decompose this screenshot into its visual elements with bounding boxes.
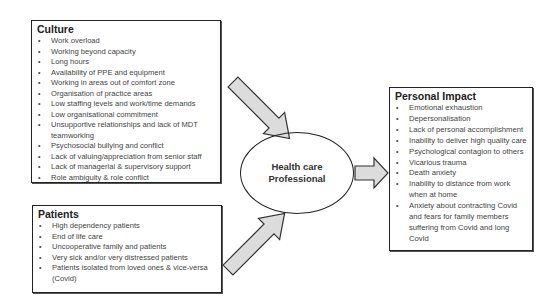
list-item: Role ambiguity & role conflict	[37, 173, 216, 184]
arrow-center-to-impact	[355, 158, 388, 188]
list-item: Psychosocial bullying and conflict	[37, 141, 216, 152]
list-item: Lack of valuing/appreciation from senior…	[37, 152, 216, 163]
list-item: Long hours	[37, 57, 216, 68]
list-item: Very sick and/or very distressed patient…	[38, 253, 217, 264]
patients-title: Patients	[38, 208, 217, 220]
list-item: High dependency patients	[38, 221, 217, 232]
list-item: Patients isolated from loved ones & vice…	[38, 263, 217, 284]
list-item: Inability to distance from work when at …	[395, 179, 528, 201]
patients-list: High dependency patients End of life car…	[38, 221, 217, 284]
list-item: Lack of personal accomplishment	[395, 125, 528, 136]
list-item: Low organisational commitment	[37, 110, 216, 121]
list-item: Inability to deliver high quality care	[395, 136, 528, 147]
culture-list: Work overload Working beyond capacity Lo…	[37, 36, 216, 183]
list-item: Depersonalisation	[395, 114, 528, 125]
culture-title: Culture	[37, 23, 216, 35]
list-item: Death anxiety	[395, 168, 528, 179]
list-item: Work overload	[37, 36, 216, 47]
list-item: Working in areas out of comfort zone	[37, 78, 216, 89]
list-item: Psychological contagion to others	[395, 147, 528, 158]
list-item: Vicarious trauma	[395, 158, 528, 169]
list-item: Unsupportive relationships and lack of M…	[37, 120, 216, 141]
health-care-professional-node: Health care Professional	[240, 132, 354, 214]
list-item: End of life care	[38, 232, 217, 243]
arrow-patients-to-center	[217, 203, 295, 281]
list-item: Working beyond capacity	[37, 47, 216, 58]
culture-box: Culture Work overload Working beyond cap…	[31, 20, 221, 183]
list-item: Anxiety about contracting Covid and fear…	[395, 201, 528, 245]
list-item: Availability of PPE and equipment	[37, 68, 216, 79]
patients-box: Patients High dependency patients End of…	[32, 205, 222, 293]
list-item: Uncooperative family and patients	[38, 242, 217, 253]
personal-impact-box: Personal Impact Emotional exhaustion Dep…	[389, 87, 533, 251]
center-label: Health care Professional	[257, 161, 337, 185]
list-item: Lack of managerial & supervisory support	[37, 162, 216, 173]
list-item: Low staffing levels and work/time demand…	[37, 99, 216, 110]
list-item: Organisation of practice areas	[37, 89, 216, 100]
impact-title: Personal Impact	[395, 90, 528, 102]
impact-list: Emotional exhaustion Depersonalisation L…	[395, 103, 528, 245]
list-item: Emotional exhaustion	[395, 103, 528, 114]
